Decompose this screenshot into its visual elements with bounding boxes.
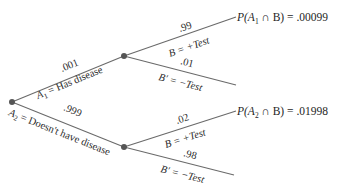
prob-bprime-given-a1: .01 [179, 55, 194, 69]
node-a1 [121, 53, 127, 59]
result-a1-and-b: P(A1 ∩ B) = .00099 [236, 11, 328, 26]
prob-a2: .999 [62, 102, 83, 119]
label-b-given-a2: B = +Test [163, 126, 208, 150]
label-b-given-a1: B = +Test [167, 34, 212, 59]
prob-bprime-given-a2: .98 [183, 147, 198, 161]
prob-b-given-a1: .99 [177, 19, 193, 34]
result-a2-and-b: P(A2 ∩ B) = .01998 [236, 105, 328, 120]
probability-tree-diagram: .001 A1 = Has disease .999 A2 = Doesn't … [0, 0, 341, 190]
node-a2 [121, 144, 127, 150]
label-a2: A2 = Doesn't have disease [5, 106, 112, 159]
prob-b-given-a2: .02 [174, 111, 190, 125]
root-node [9, 99, 15, 105]
prob-a1: .001 [59, 57, 80, 74]
